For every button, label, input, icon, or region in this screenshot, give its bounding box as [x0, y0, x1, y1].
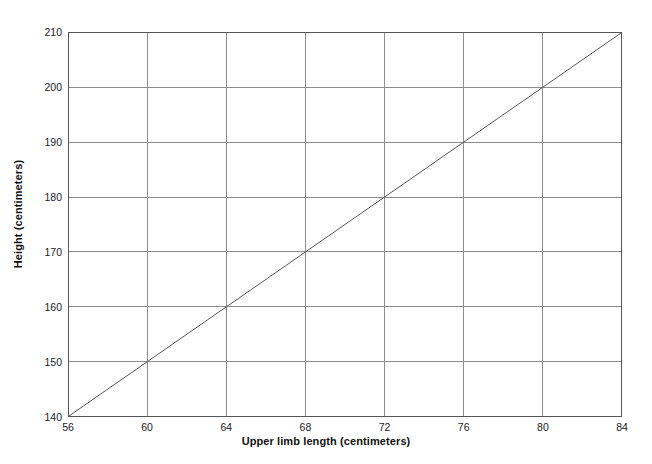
x-tick-label-68: 68 [300, 422, 312, 433]
y-tick-label-200: 200 [30, 82, 62, 93]
plot-area [68, 32, 622, 417]
x-axis-title: Upper limb length (centimeters) [0, 435, 652, 447]
chart-figure: Height (centimeters) 140 150 160 170 180… [0, 0, 652, 464]
y-tick-label-210: 210 [30, 27, 62, 38]
y-tick-label-180: 180 [30, 192, 62, 203]
y-tick-label-140: 140 [30, 412, 62, 423]
x-tick-label-60: 60 [141, 422, 153, 433]
x-tick-label-80: 80 [537, 422, 549, 433]
data-line-series [69, 33, 621, 416]
y-tick-label-150: 150 [30, 357, 62, 368]
x-tick-label-56: 56 [62, 422, 74, 433]
x-tick-label-84: 84 [616, 422, 628, 433]
y-tick-label-160: 160 [30, 302, 62, 313]
x-tick-label-72: 72 [379, 422, 391, 433]
y-tick-label-170: 170 [30, 247, 62, 258]
x-tick-label-76: 76 [458, 422, 470, 433]
y-tick-label-190: 190 [30, 137, 62, 148]
x-tick-label-64: 64 [220, 422, 232, 433]
y-axis-title: Height (centimeters) [12, 134, 24, 294]
